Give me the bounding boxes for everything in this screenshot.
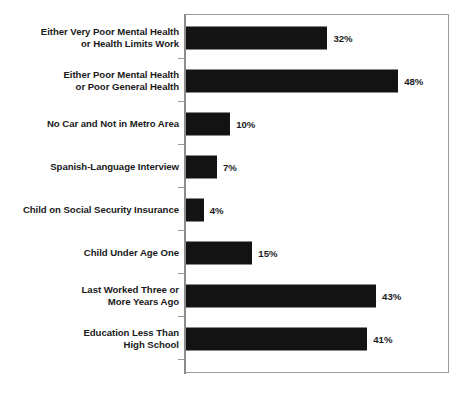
bar-value-label: 32% [333,32,352,43]
category-label: Child on Social Security Insurance [7,203,179,215]
bar [186,198,204,221]
bar-with-value: 10% [186,112,255,135]
axis-tick [178,230,185,231]
axis-tick [178,273,185,274]
bar [186,155,217,178]
axis-tick [178,316,185,317]
bar-chart: Either Very Poor Mental Health or Health… [0,0,471,396]
bar-with-value: 43% [186,284,401,307]
axis-tick [178,144,185,145]
bar-with-value: 41% [186,327,392,350]
axis-tick [178,359,185,360]
bar [186,284,376,307]
bar-with-value: 7% [186,155,237,178]
category-label: Spanish-Language Interview [7,160,179,172]
bar [186,327,367,350]
bar-row: Child Under Age One15% [0,231,471,274]
category-label: Last Worked Three or More Years Ago [7,283,179,307]
bar-row: No Car and Not in Metro Area10% [0,102,471,145]
bar-row: Education Less Than High School41% [0,317,471,360]
bar-row: Child on Social Security Insurance4% [0,188,471,231]
category-label: No Car and Not in Metro Area [7,117,179,129]
bar [186,241,252,264]
bar-value-label: 43% [382,290,401,301]
bar-value-label: 48% [404,75,423,86]
axis-tick [178,187,185,188]
bar-value-label: 7% [223,161,237,172]
bar [186,26,327,49]
bar-value-label: 10% [236,118,255,129]
bar [186,112,230,135]
bar-row: Either Poor Mental Health or Poor Genera… [0,59,471,102]
bar-value-label: 15% [258,247,277,258]
category-label: Either Poor Mental Health or Poor Genera… [7,68,179,92]
bar [186,69,398,92]
bar-with-value: 32% [186,26,353,49]
bar-value-label: 4% [210,204,224,215]
category-label: Either Very Poor Mental Health or Health… [7,25,179,49]
bar-row: Either Very Poor Mental Health or Health… [0,16,471,59]
bar-with-value: 48% [186,69,423,92]
category-label: Education Less Than High School [7,326,179,350]
axis-tick [178,101,185,102]
axis-tick [178,58,185,59]
bar-with-value: 4% [186,198,224,221]
bar-row: Spanish-Language Interview7% [0,145,471,188]
bar-value-label: 41% [373,333,392,344]
category-label: Child Under Age One [7,246,179,258]
bar-row: Last Worked Three or More Years Ago43% [0,274,471,317]
bar-with-value: 15% [186,241,278,264]
